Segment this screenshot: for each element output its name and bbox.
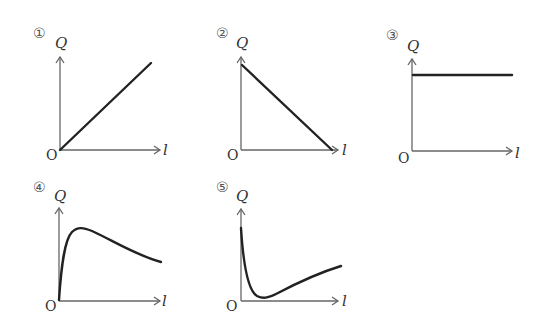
plot-line <box>242 65 332 150</box>
y-axis-label: Q <box>236 187 248 205</box>
plot-curve <box>241 228 341 298</box>
option-number-5: ⑤ <box>216 179 229 195</box>
origin-label: O <box>227 147 238 163</box>
x-axis-label: l <box>162 292 167 310</box>
graph-4: ④ Q O l <box>33 179 167 314</box>
origin-label: O <box>398 150 409 166</box>
graph-1: ① Q O l <box>33 25 168 163</box>
y-axis-label: Q <box>55 34 67 52</box>
plot-curve <box>59 228 161 300</box>
x-axis-label: l <box>342 292 347 310</box>
y-axis-label: Q <box>54 187 66 205</box>
graph-5: ⑤ Q O l <box>216 179 347 314</box>
origin-label: O <box>46 147 57 163</box>
graph-options-figure: ① Q O l ② Q O l ③ Q O l ④ Q O l <box>0 0 549 329</box>
plot-line <box>60 63 151 150</box>
option-number-2: ② <box>216 25 229 41</box>
graph-2: ② Q O l <box>216 25 347 163</box>
y-axis-label: Q <box>236 34 248 52</box>
origin-label: O <box>45 298 56 314</box>
y-axis-label: Q <box>407 37 419 55</box>
origin-label: O <box>226 298 237 314</box>
option-number-3: ③ <box>386 27 399 43</box>
x-axis-label: l <box>342 141 347 159</box>
x-axis-label: l <box>515 144 520 162</box>
option-number-1: ① <box>33 25 46 41</box>
option-number-4: ④ <box>33 179 46 195</box>
x-axis-label: l <box>163 141 168 159</box>
graph-3: ③ Q O l <box>386 27 520 166</box>
